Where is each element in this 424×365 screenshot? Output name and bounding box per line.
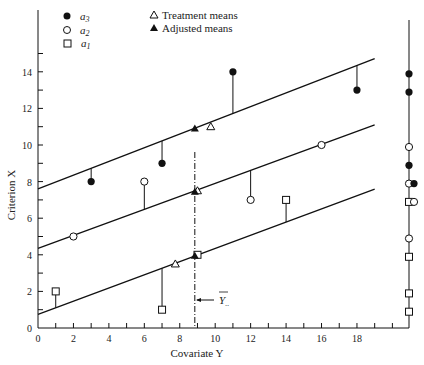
x-tick-label: 6 <box>142 333 147 344</box>
x-tick-label: 8 <box>177 333 182 344</box>
y-tick-label: 10 <box>22 140 32 151</box>
y-axis-label: Criterion X <box>5 170 17 220</box>
legend-a1-label: a1 <box>81 37 91 51</box>
x-tick-label: 14 <box>281 333 291 344</box>
open-square-marker <box>52 288 59 295</box>
legend-treatment-marker <box>150 11 158 18</box>
legend-a1-marker <box>64 40 71 47</box>
y-tick-label: 14 <box>22 67 32 78</box>
y-tick-label: 0 <box>27 323 32 334</box>
adjusted-mean-marker <box>191 125 199 132</box>
open-circle-marker <box>410 198 417 205</box>
open-square-marker <box>159 306 166 313</box>
filled-circle-marker <box>158 160 165 167</box>
x-tick-label: 10 <box>210 333 220 344</box>
open-circle-marker <box>247 196 254 203</box>
data-points <box>52 68 360 313</box>
filled-circle-marker <box>405 162 412 169</box>
legend-adjusted-marker <box>150 24 158 31</box>
legend: a3 a2 a1 Treatment means Adjusted means <box>64 9 238 51</box>
open-square-marker <box>406 253 413 260</box>
y-tick-label: 12 <box>22 103 32 114</box>
open-circle-marker <box>141 178 148 185</box>
svg-text:Y..: Y.. <box>219 294 229 308</box>
x-tick-label: 0 <box>36 333 41 344</box>
x-axis-label: Covariate Y <box>170 347 223 359</box>
open-square-marker <box>406 290 413 297</box>
filled-circle-marker <box>353 87 360 94</box>
regression-line-a3 <box>38 59 375 189</box>
filled-circle-marker <box>405 89 412 96</box>
x-tick-label: 12 <box>246 333 256 344</box>
open-circle-marker <box>405 235 412 242</box>
open-circle-marker <box>318 141 325 148</box>
ancova-chart: 02468101214161802468101214 a3 a2 a1 Trea… <box>0 0 424 365</box>
legend-a3-label: a3 <box>80 10 90 24</box>
y-tick-label: 6 <box>27 213 32 224</box>
open-square-marker <box>406 308 413 315</box>
filled-circle-marker <box>410 180 417 187</box>
marginal-distribution <box>405 20 417 328</box>
axes: 02468101214161802468101214 <box>22 10 409 344</box>
grand-mean-annotation: Y.. <box>196 292 229 308</box>
x-tick-label: 4 <box>106 333 111 344</box>
x-tick-label: 16 <box>317 333 327 344</box>
x-tick-label: 18 <box>352 333 362 344</box>
regression-line-a1 <box>38 189 375 314</box>
legend-a3-marker <box>64 13 71 20</box>
legend-adjusted-label: Adjusted means <box>162 22 233 34</box>
filled-circle-marker <box>229 68 236 75</box>
legend-a2-marker <box>64 27 71 34</box>
open-circle-marker <box>70 233 77 240</box>
filled-circle-marker <box>88 178 95 185</box>
y-tick-label: 4 <box>27 250 32 261</box>
open-circle-marker <box>405 143 412 150</box>
y-tick-label: 8 <box>27 177 32 188</box>
treatment-mean-marker <box>171 260 179 267</box>
x-tick-label: 2 <box>71 333 76 344</box>
legend-a2-label: a2 <box>80 24 90 38</box>
open-square-marker <box>283 196 290 203</box>
regression-lines <box>38 59 375 315</box>
y-tick-label: 2 <box>27 286 32 297</box>
filled-circle-marker <box>405 70 412 77</box>
legend-treatment-label: Treatment means <box>162 9 238 21</box>
